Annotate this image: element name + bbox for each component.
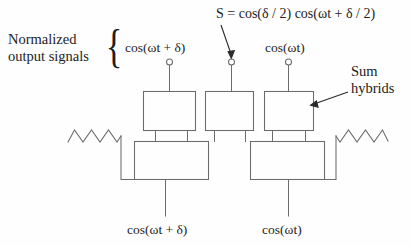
hybrid-network-diagram: Normalized output signals { S = cos(δ / … [0,0,411,246]
formula-pointer-arrow-line [221,25,231,54]
normalized-output-signals-label: Normalized output signals [8,31,89,65]
grouping-brace: { [106,24,123,70]
normalized-line-2: output signals [8,48,89,65]
sum-hybrids-pointer-arrow-line [314,92,348,104]
output-terminal-right-circle [286,59,292,65]
sum-hybrids-line-1: Sum [351,63,395,80]
sum-hybrids-line-2: hybrids [351,80,395,97]
formula-pointer-arrowhead [228,51,234,59]
output-terminal-left-circle [167,59,173,65]
sum-hybrid-left-box [144,92,196,131]
termination-right-feed [325,136,337,180]
output-terminal-middle-circle [229,59,235,65]
sum-hybrids-pointer-arrowhead [311,101,319,107]
normalized-line-1: Normalized [8,31,89,48]
sum-hybrids-label: Sum hybrids [351,63,395,97]
sum-output-formula: S = cos(δ / 2) cos(ωt + δ / 2) [216,6,375,23]
termination-left-zigzag [68,130,121,142]
divider-left-box [135,142,209,180]
output-signal-label-right: cos(ωt) [265,40,305,56]
divider-right-box [251,142,325,180]
sum-hybrid-middle-box [206,92,254,131]
termination-left-feed [121,136,135,180]
input-signal-label-right: cos(ωt) [262,222,302,238]
input-signal-label-left: cos(ωt + δ) [127,222,187,238]
termination-right-zigzag [336,130,388,142]
output-signal-label-left: cos(ωt + δ) [125,40,185,56]
sum-hybrid-right-box [265,92,314,131]
